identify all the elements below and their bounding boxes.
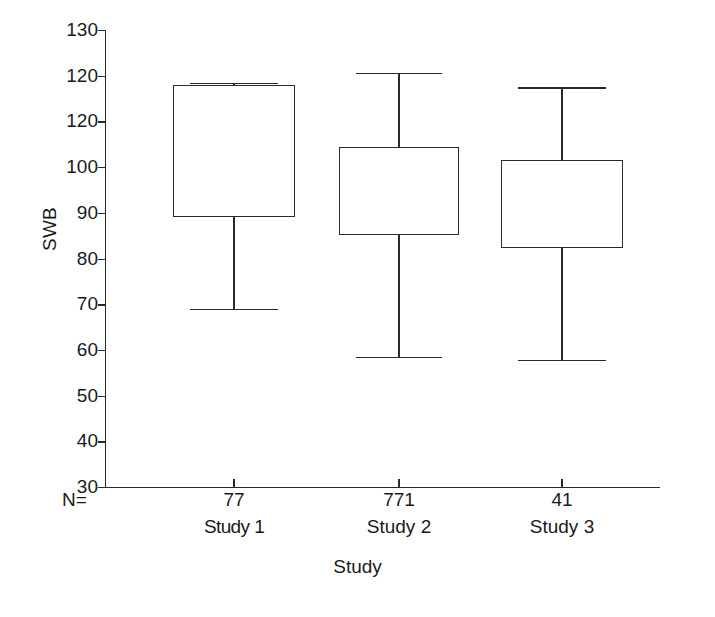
upper-whisker-cap xyxy=(190,83,278,84)
upper-whisker-cap xyxy=(518,87,606,88)
group-n-value: 41 xyxy=(492,489,632,511)
lower-whisker-line xyxy=(398,235,399,357)
x-axis-tick-mark xyxy=(398,479,399,488)
upper-whisker-line xyxy=(561,87,562,160)
lower-whisker-line xyxy=(233,217,234,308)
x-axis-tick-mark xyxy=(233,479,234,488)
lower-whisker-cap xyxy=(190,309,278,310)
y-axis-tick-label: 130 xyxy=(38,20,98,39)
lower-whisker-cap xyxy=(356,357,442,358)
y-axis-tick-label: 40 xyxy=(38,431,98,450)
lower-whisker-cap xyxy=(518,360,606,361)
group-category-label: Study 2 xyxy=(329,516,469,538)
x-axis-tick-mark xyxy=(561,479,562,488)
y-axis-tick-label: 120 xyxy=(38,111,98,130)
group-n-value: 771 xyxy=(329,489,469,511)
group-category-label: Study 3 xyxy=(492,516,632,538)
group-n-value: 77 xyxy=(164,489,304,511)
upper-whisker-cap xyxy=(356,73,442,74)
y-axis-tick-mark xyxy=(98,167,106,168)
y-axis-tick-label: 70 xyxy=(38,294,98,313)
group-category-label: Study 1 xyxy=(164,516,304,538)
y-axis-tick-mark xyxy=(98,487,106,488)
y-axis-tick-mark xyxy=(98,396,106,397)
y-axis-tick-mark xyxy=(98,441,106,442)
y-axis-tick-mark xyxy=(98,121,106,122)
y-axis-tick-mark xyxy=(98,213,106,214)
y-axis-tick-label: 60 xyxy=(38,340,98,359)
y-axis-tick-mark xyxy=(98,350,106,351)
y-axis-tick-label: 90 xyxy=(38,203,98,222)
y-axis-tick-label: 120 xyxy=(38,66,98,85)
y-axis-tick-label: 80 xyxy=(38,249,98,268)
y-axis-tick-label: 100 xyxy=(38,157,98,176)
y-axis-tick-mark xyxy=(98,30,106,31)
y-axis-tick-mark xyxy=(98,76,106,77)
x-axis-title: Study xyxy=(0,556,715,578)
interquartile-box xyxy=(173,85,295,218)
n-prefix-label: N= xyxy=(62,489,87,511)
interquartile-box xyxy=(501,160,623,248)
y-axis-tick-label: 50 xyxy=(38,386,98,405)
y-axis-tick-mark xyxy=(98,259,106,260)
upper-whisker-line xyxy=(398,73,399,147)
lower-whisker-line xyxy=(561,248,562,360)
boxplot-figure: SWB 13012012010090807060504030 N= 77Stud… xyxy=(0,0,715,617)
interquartile-box xyxy=(339,147,459,235)
y-axis-tick-mark xyxy=(98,304,106,305)
